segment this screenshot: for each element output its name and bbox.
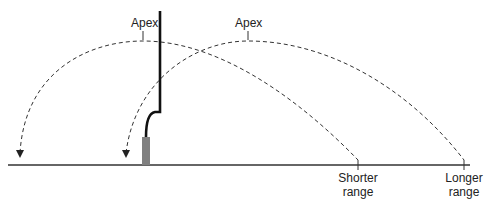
shorter-arrowhead-icon [16,150,24,158]
range-label-longer: Longer range [442,171,486,199]
shorter-trajectory [20,41,358,160]
launcher-base [142,137,150,165]
range-label-shorter-line1: Shorter [335,171,381,185]
trajectory-diagram [0,0,488,202]
range-label-longer-line2: range [442,185,486,199]
longer-trajectory [126,41,464,160]
range-label-longer-line1: Longer [442,171,486,185]
longer-arrowhead-icon [122,150,130,158]
range-label-shorter-line2: range [335,185,381,199]
apex-label-longer: Apex [235,16,262,30]
range-label-shorter: Shorter range [335,171,381,199]
apex-label-shorter: Apex [131,16,158,30]
